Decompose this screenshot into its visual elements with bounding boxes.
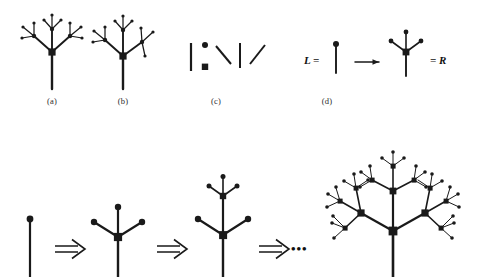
gen3-leaf bbox=[330, 221, 334, 225]
leaf-node bbox=[32, 21, 35, 24]
primitive-square-node bbox=[202, 64, 208, 70]
gen3-square-node-l2 bbox=[338, 199, 343, 204]
gen3-square-node-l2 bbox=[354, 186, 359, 191]
gen3-leaf bbox=[391, 150, 395, 154]
gen3-square-node-l2 bbox=[343, 226, 348, 231]
double-arrow-head bbox=[174, 240, 187, 259]
gen1-round-node bbox=[115, 204, 121, 210]
gen3-leaf bbox=[331, 214, 335, 218]
gen3-square-node-l2 bbox=[428, 186, 433, 191]
primitive-segment-backslash bbox=[216, 46, 231, 64]
square-node-root bbox=[119, 52, 126, 59]
stage-1-gen1 bbox=[91, 204, 145, 277]
gen3-leaf bbox=[334, 185, 338, 189]
gen3-l1-left bbox=[361, 213, 393, 231]
figure-canvas bbox=[0, 0, 484, 277]
gen3-l2 bbox=[425, 188, 430, 213]
axiom-round-node bbox=[27, 216, 34, 223]
gen3-leaf bbox=[332, 236, 336, 240]
leaf-node bbox=[50, 13, 53, 16]
panel-b-tree bbox=[91, 14, 154, 89]
gen3-square-node-l1 bbox=[421, 209, 428, 216]
rule-lhs-label: L = bbox=[304, 54, 319, 66]
gen3-square-node-l1 bbox=[390, 188, 397, 195]
leaf-node bbox=[92, 29, 95, 32]
leaf-node bbox=[151, 30, 154, 33]
stage-2-gen2 bbox=[195, 174, 251, 277]
gen1-square-node bbox=[114, 233, 122, 241]
leaf-node bbox=[68, 21, 71, 24]
double-arrow-shafts bbox=[55, 246, 78, 252]
gen3-leaf bbox=[358, 185, 362, 189]
rule-rhs-round-node bbox=[419, 39, 424, 44]
leaf-node bbox=[113, 19, 116, 22]
stage-3-gen3 bbox=[325, 150, 461, 277]
gen1-round-node bbox=[91, 219, 97, 225]
rule-lhs-round-node bbox=[333, 41, 339, 47]
gen3-square-node-l2 bbox=[391, 164, 396, 169]
gen1-round-node bbox=[139, 219, 145, 225]
rule-rhs-label: = R bbox=[430, 54, 446, 66]
double-arrow-shafts bbox=[259, 246, 282, 252]
gen2-round-node bbox=[195, 216, 201, 222]
double-arrow-shafts bbox=[157, 246, 180, 252]
leaf-node bbox=[79, 25, 82, 28]
rule-arrow-head bbox=[373, 59, 380, 65]
round-node-l1-mid bbox=[50, 27, 54, 31]
panel-a-tree bbox=[20, 13, 83, 89]
panel-label-b: (b) bbox=[113, 96, 133, 106]
double-arrow-head bbox=[72, 240, 85, 259]
derivation-arrow-2 bbox=[157, 240, 187, 259]
round-node-l1-right bbox=[68, 34, 72, 38]
continuation-ellipsis: ••• bbox=[291, 241, 308, 257]
gen3-leaf bbox=[451, 214, 455, 218]
round-node-l1-mid bbox=[121, 28, 125, 32]
panel-label-c: (c) bbox=[206, 96, 226, 106]
round-node-l1-right bbox=[140, 40, 144, 44]
gen3-square-node-l2 bbox=[370, 178, 375, 183]
gen3-square-node-l2 bbox=[412, 178, 417, 183]
gen2-round-node bbox=[207, 184, 212, 189]
gen3-l2 bbox=[356, 188, 361, 213]
gen3-leaf bbox=[326, 192, 330, 196]
rule-rhs-round-node bbox=[404, 30, 409, 35]
round-node-l1-left bbox=[32, 34, 36, 38]
figure-root: (a) (b) (c) (d) L = = R ••• bbox=[0, 0, 484, 277]
gen3-leaf bbox=[414, 164, 418, 168]
gen3-leaf bbox=[424, 185, 428, 189]
leaf-node bbox=[143, 54, 146, 57]
gen3-leaf bbox=[366, 178, 370, 182]
leaf-node bbox=[139, 26, 142, 29]
gen3-leaf bbox=[457, 205, 461, 209]
gen3-leaf bbox=[368, 164, 372, 168]
leaf-node bbox=[80, 36, 83, 39]
rule-rhs-round-node bbox=[389, 39, 394, 44]
derivation-arrow-3 bbox=[259, 240, 289, 259]
gen3-square-node-l1 bbox=[357, 209, 364, 216]
gen3-leaf bbox=[440, 179, 444, 183]
panel-label-d: (d) bbox=[317, 96, 337, 106]
gen3-leaf bbox=[423, 170, 427, 174]
gen3-leaf bbox=[448, 185, 452, 189]
rule-rhs-square-node bbox=[403, 49, 410, 56]
gen2-round-node bbox=[221, 174, 226, 179]
gen3-leaf bbox=[450, 236, 454, 240]
stage-0-axiom bbox=[27, 216, 34, 277]
gen3-leaf bbox=[456, 192, 460, 196]
gen3-leaf bbox=[452, 221, 456, 225]
double-arrow-head bbox=[276, 240, 289, 259]
gen3-square-node-l2 bbox=[439, 226, 444, 231]
gen3-leaf bbox=[359, 170, 363, 174]
derivation-arrow-1 bbox=[55, 240, 85, 259]
gen3-leaf bbox=[430, 172, 434, 176]
gen3-leaf bbox=[325, 205, 329, 209]
panel-label-a: (a) bbox=[42, 96, 62, 106]
leaf-node bbox=[121, 14, 124, 17]
panel-c-primitives bbox=[191, 42, 265, 71]
gen3-leaf bbox=[402, 156, 406, 160]
round-node-l1-left bbox=[103, 38, 107, 42]
gen2-round-node bbox=[245, 216, 251, 222]
primitive-round-node bbox=[202, 42, 208, 48]
square-node-root bbox=[48, 48, 55, 55]
gen2-round-node bbox=[235, 184, 240, 189]
